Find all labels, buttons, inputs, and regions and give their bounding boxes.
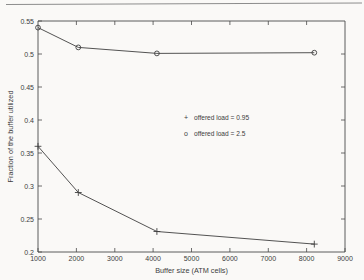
x-tick-label: 8000: [299, 255, 315, 262]
y-axis-ticks: [38, 21, 345, 252]
data-point-marker: [154, 228, 161, 235]
y-tick-label: 0.4: [24, 117, 34, 124]
legend-marker-circle-icon: o: [184, 130, 188, 137]
legend-entry-offered-load-2-5: o offered load = 2.5: [184, 130, 246, 137]
x-tick-label: 6000: [222, 255, 238, 262]
chart-figure: 1000 2000 3000 4000 5000 6000 7000 8000 …: [0, 0, 364, 280]
x-tick-label: 1000: [30, 255, 46, 262]
legend-marker-plus-icon: +: [184, 114, 188, 121]
series-offered-load-2-5: [36, 25, 317, 56]
x-axis-title: Buffer size (ATM cells): [155, 266, 228, 275]
x-tick-label: 3000: [107, 255, 123, 262]
y-tick-labels: 0.2 0.25 0.3 0.35 0.4 0.45 0.5 0.55: [20, 18, 34, 256]
x-tick-label: 2000: [69, 255, 85, 262]
data-point-marker: [311, 241, 318, 248]
y-tick-label: 0.25: [20, 216, 34, 223]
legend-label: offered load = 0.95: [194, 114, 249, 121]
y-tick-label: 0.55: [20, 18, 34, 25]
y-axis-title: Fraction of the buffer utilized: [6, 91, 15, 183]
y-tick-label: 0.35: [20, 150, 34, 157]
x-tick-label: 5000: [184, 255, 200, 262]
chart-svg: 1000 2000 3000 4000 5000 6000 7000 8000 …: [0, 0, 364, 280]
x-tick-label: 9000: [337, 255, 353, 262]
x-tick-labels: 1000 2000 3000 4000 5000 6000 7000 8000 …: [30, 255, 353, 262]
y-tick-label: 0.3: [24, 183, 34, 190]
legend-label: offered load = 2.5: [194, 130, 246, 137]
legend-entry-offered-load-0-95: + offered load = 0.95: [184, 114, 249, 121]
axes-frame: [38, 21, 345, 252]
x-tick-label: 4000: [145, 255, 161, 262]
figure-page: 1000 2000 3000 4000 5000 6000 7000 8000 …: [0, 0, 364, 280]
y-tick-label: 0.45: [20, 84, 34, 91]
x-tick-label: 7000: [261, 255, 277, 262]
chart-legend: + offered load = 0.95 o offered load = 2…: [184, 114, 249, 137]
series-offered-load-0-95: [35, 143, 318, 248]
y-tick-label: 0.5: [24, 51, 34, 58]
y-tick-label: 0.2: [24, 249, 34, 256]
x-axis-ticks: [38, 21, 345, 252]
